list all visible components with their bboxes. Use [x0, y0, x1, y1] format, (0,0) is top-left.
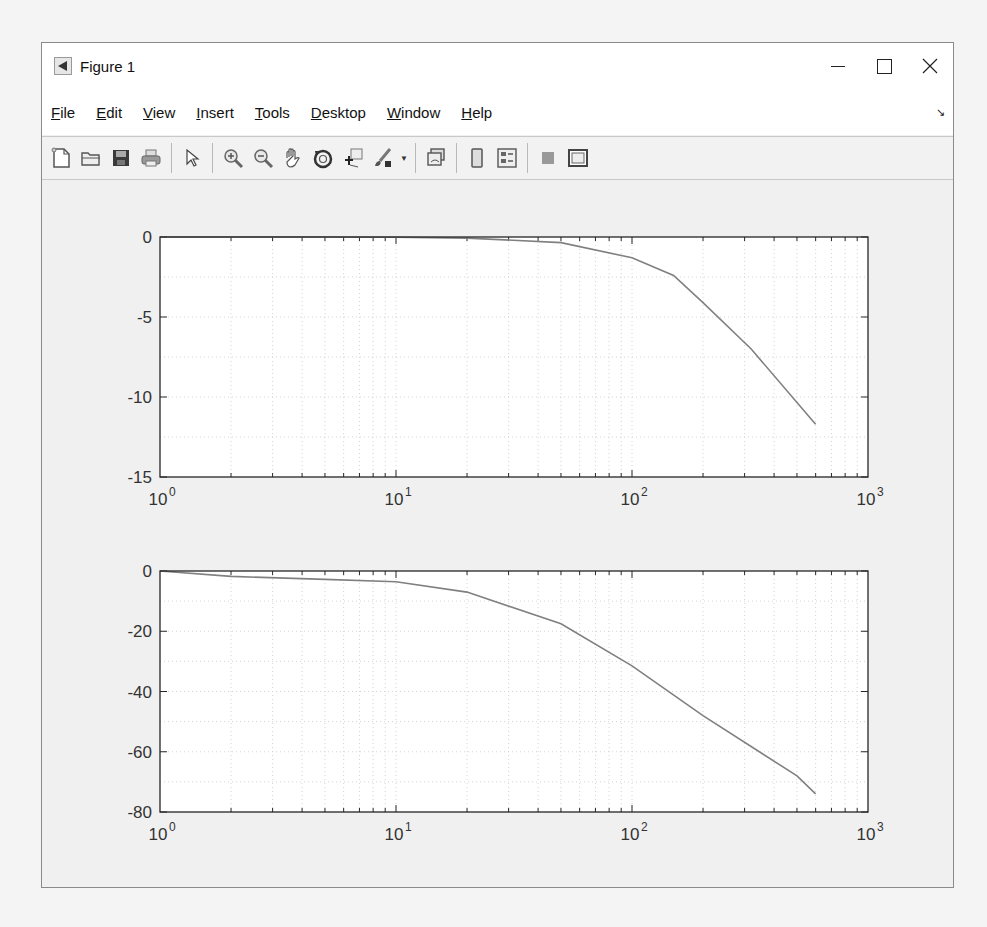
show-plot-tools-icon: [567, 147, 589, 169]
print-button[interactable]: [138, 145, 164, 171]
menu-help[interactable]: Help: [459, 104, 494, 121]
title-bar[interactable]: Figure 1: [42, 43, 953, 89]
save-button[interactable]: [108, 145, 134, 171]
show-plot-tools-button[interactable]: [565, 145, 591, 171]
brush-icon: [372, 147, 394, 169]
link-plot-button[interactable]: [423, 145, 449, 171]
window-controls: [815, 43, 953, 89]
toolbar-separator: [527, 143, 528, 173]
data-cursor-button[interactable]: [340, 145, 366, 171]
zoom-in-button[interactable]: [220, 145, 246, 171]
menu-window[interactable]: Window: [385, 104, 442, 121]
new-file-icon: [51, 147, 71, 169]
menu-view[interactable]: View: [141, 104, 177, 121]
brush-button[interactable]: [370, 145, 396, 171]
save-icon: [111, 148, 131, 168]
figure-canvas-area: [42, 180, 953, 887]
dock-arrow-icon[interactable]: ↘: [936, 106, 945, 119]
matlab-figure-icon: [54, 57, 72, 75]
hide-plot-tools-icon: [538, 148, 558, 168]
pointer-arrow-icon: [183, 148, 201, 168]
folder-open-icon: [80, 148, 102, 168]
toolbar-separator: [212, 143, 213, 173]
zoom-in-icon: [222, 147, 244, 169]
legend-button[interactable]: [494, 145, 520, 171]
menu-edit[interactable]: Edit: [94, 104, 124, 121]
window-title: Figure 1: [80, 58, 135, 75]
menu-insert[interactable]: Insert: [194, 104, 236, 121]
printer-icon: [140, 148, 162, 168]
data-cursor-icon: [342, 147, 364, 169]
minimize-icon: [831, 66, 845, 67]
link-plot-icon: [425, 147, 447, 169]
brush-dropdown-arrow[interactable]: ▼: [400, 154, 408, 163]
rotate-3d-icon: [312, 147, 334, 169]
colorbar-icon: [469, 147, 485, 169]
minimize-button[interactable]: [815, 43, 861, 89]
legend-icon: [496, 147, 518, 169]
zoom-out-icon: [252, 147, 274, 169]
toolbar-separator: [456, 143, 457, 173]
new-figure-button[interactable]: [48, 145, 74, 171]
menu-file[interactable]: File: [49, 104, 77, 121]
colorbar-button[interactable]: [464, 145, 490, 171]
maximize-icon: [877, 59, 892, 74]
figure-window: Figure 1 FileEditViewInsertToolsDesktopW…: [41, 42, 954, 888]
menu-tools[interactable]: Tools: [253, 104, 292, 121]
maximize-button[interactable]: [861, 43, 907, 89]
close-icon: [922, 58, 938, 74]
close-button[interactable]: [907, 43, 953, 89]
hand-icon: [282, 147, 304, 169]
edit-plot-button[interactable]: [179, 145, 205, 171]
open-file-button[interactable]: [78, 145, 104, 171]
figure-toolbar: ▼: [42, 136, 953, 180]
toolbar-separator: [171, 143, 172, 173]
hide-plot-tools-button[interactable]: [535, 145, 561, 171]
menu-desktop[interactable]: Desktop: [309, 104, 368, 121]
pan-button[interactable]: [280, 145, 306, 171]
zoom-out-button[interactable]: [250, 145, 276, 171]
rotate-3d-button[interactable]: [310, 145, 336, 171]
menu-bar: FileEditViewInsertToolsDesktopWindowHelp…: [42, 89, 953, 135]
toolbar-separator: [415, 143, 416, 173]
